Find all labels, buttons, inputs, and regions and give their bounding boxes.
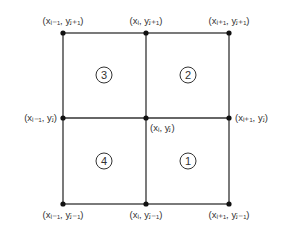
label-mid-right: (xᵢ₊₁, yⱼ) [235, 112, 268, 123]
quadrant-1: 1 [185, 155, 191, 167]
grid-diagram: 3 2 4 1 (xᵢ₋₁, yⱼ₊₁) (xᵢ, yⱼ₊₁) (xᵢ₊₁, y… [0, 0, 287, 235]
quadrant-2: 2 [185, 69, 191, 81]
label-center: (xᵢ, yⱼ) [150, 122, 175, 133]
label-top-left: (xᵢ₋₁, yⱼ₊₁) [42, 15, 83, 26]
quadrant-4: 4 [101, 155, 107, 167]
quadrant-3: 3 [101, 69, 107, 81]
label-top-right: (xᵢ₊₁, yⱼ₊₁) [208, 15, 249, 26]
label-bottom-left: (xᵢ₋₁, yⱼ₋₁) [42, 209, 83, 220]
label-mid-left: (xᵢ₋₁, yⱼ) [24, 112, 57, 123]
label-top-mid: (xᵢ, yⱼ₊₁) [130, 15, 163, 26]
label-bottom-mid: (xᵢ, yⱼ₋₁) [130, 209, 163, 220]
label-bottom-right: (xᵢ₊₁, yⱼ₋₁) [208, 209, 249, 220]
